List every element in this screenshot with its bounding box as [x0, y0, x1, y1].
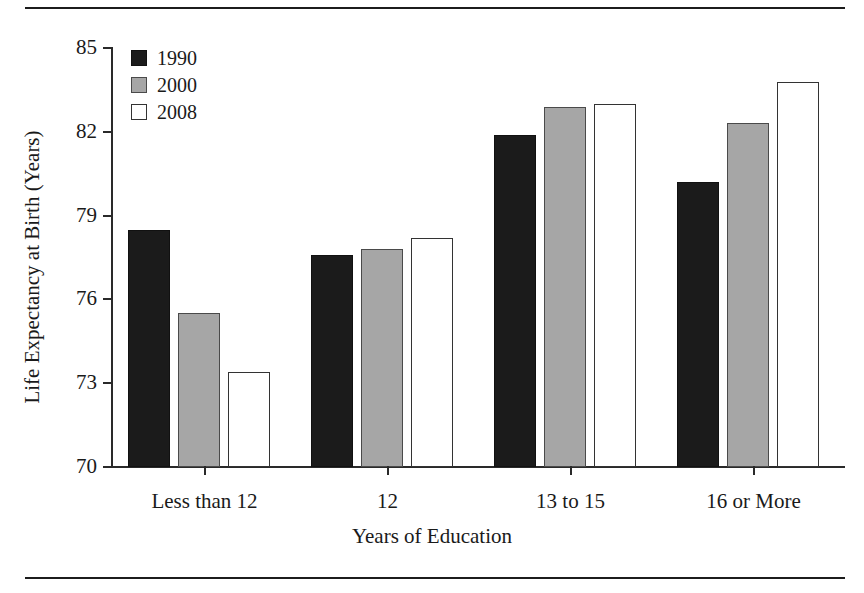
chart-legend: 1990 2000 2008 [131, 44, 271, 125]
x-tick-label-3: 16 or More [644, 489, 864, 513]
bar-2000-13-to-15 [544, 107, 586, 467]
y-tick-label-73: 73 [45, 372, 97, 393]
legend-label-2000: 2000 [157, 75, 197, 95]
y-axis-title: Life Expectancy at Birth (Years) [21, 67, 43, 467]
bar-2000-less-than-12 [178, 313, 220, 467]
y-tick-label-82: 82 [45, 121, 97, 142]
y-tick-76 [103, 298, 112, 300]
legend-label-2008: 2008 [157, 102, 197, 122]
x-tick-2 [570, 466, 572, 475]
y-tick-85 [103, 47, 112, 49]
bottom-rule [25, 577, 845, 579]
bar-2008-16-or-more [777, 82, 819, 467]
bar-1990-12 [311, 255, 353, 467]
bar-1990-16-or-more [677, 182, 719, 467]
bar-chart-figure: 707376798285 Less than 121213 to 1516 or… [0, 0, 864, 577]
x-tick-0 [204, 466, 206, 475]
y-tick-73 [103, 382, 112, 384]
bar-2008-less-than-12 [228, 372, 270, 467]
legend-label-1990: 1990 [157, 48, 197, 68]
legend-item-1990: 1990 [131, 44, 271, 71]
bar-2000-12 [361, 249, 403, 467]
bar-1990-13-to-15 [494, 135, 536, 467]
legend-item-2008: 2008 [131, 98, 271, 125]
y-tick-label-76: 76 [45, 288, 97, 309]
legend-swatch-1990-icon [131, 50, 147, 66]
y-axis-line [111, 47, 113, 468]
x-tick-1 [387, 466, 389, 475]
y-tick-70 [103, 466, 112, 468]
y-tick-label-85: 85 [45, 37, 97, 58]
legend-swatch-2000-icon [131, 77, 147, 93]
legend-swatch-2008-icon [131, 104, 147, 120]
x-axis-title: Years of Education [0, 524, 864, 548]
bar-2008-12 [411, 238, 453, 467]
x-tick-3 [753, 466, 755, 475]
bar-2008-13-to-15 [594, 104, 636, 467]
y-tick-82 [103, 131, 112, 133]
y-tick-79 [103, 215, 112, 217]
y-tick-label-79: 79 [45, 205, 97, 226]
legend-item-2000: 2000 [131, 71, 271, 98]
y-tick-label-70: 70 [45, 456, 97, 477]
bar-2000-16-or-more [727, 123, 769, 467]
bar-1990-less-than-12 [128, 230, 170, 467]
